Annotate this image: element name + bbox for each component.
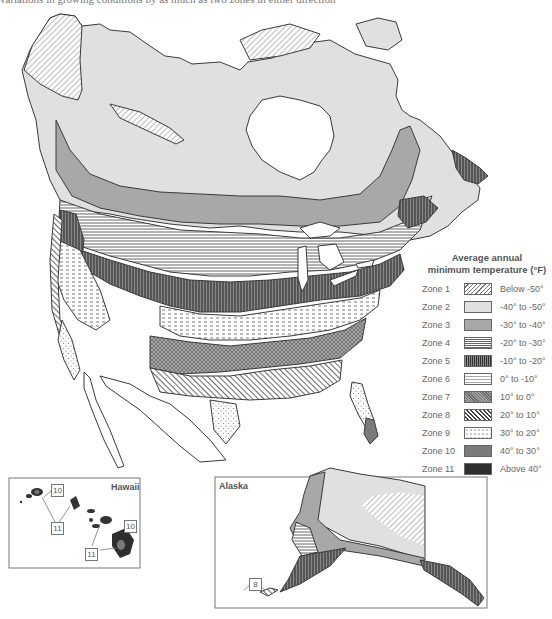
hawaii-callout-zone11-big-island: 11 (85, 548, 98, 561)
zone10-swatch (464, 445, 492, 457)
hawaii-label: Hawaii (111, 482, 140, 492)
zone8-swatch (464, 409, 492, 421)
legend-zone-label: Zone 7 (422, 391, 450, 404)
alaska-label: Alaska (219, 481, 248, 491)
legend-zone-label: Zone 2 (422, 301, 450, 314)
zone10-florida-tip (364, 418, 378, 444)
legend-row-zone5: Zone 5 -10° to -20° (418, 355, 552, 369)
legend-zone-label: Zone 3 (422, 319, 450, 332)
legend-zone-range: 10° to 0° (500, 391, 535, 404)
legend-row-zone4: Zone 4 -20° to -30° (418, 337, 552, 351)
zone5-swatch (464, 355, 492, 367)
legend-row-zone2: Zone 2 -40° to -50° (418, 301, 552, 315)
arctic-island-east (356, 18, 402, 50)
zone9-swatch (464, 427, 492, 439)
legend-zone-label: Zone 4 (422, 337, 450, 350)
legend-zone-range: 0° to -10° (500, 373, 538, 386)
zone9-california (58, 320, 80, 380)
legend-row-zone10: Zone 10 40° to 30° (418, 445, 552, 459)
zone9-texas (210, 400, 240, 444)
legend-zone-label: Zone 11 (422, 463, 454, 476)
hawaii-callout-zone11-oahu: 11 (51, 522, 64, 535)
zone11-swatch (464, 463, 492, 475)
legend-row-zone11: Zone 11 Above 40° (418, 463, 552, 477)
legend-zone-range: 30° to 20° (500, 427, 540, 440)
legend-row-zone6: Zone 6 0° to -10° (418, 373, 552, 387)
legend-zone-range: Above 40° (500, 463, 542, 476)
legend-title-line1: Average annual (422, 252, 552, 264)
alaska-callout-zone8: 8 (249, 578, 262, 591)
legend-zone-label: Zone 10 (422, 445, 455, 458)
zone7-swatch (464, 391, 492, 403)
legend-row-zone9: Zone 9 30° to 20° (418, 427, 552, 441)
hawaii-callout-zone10-big-island: 10 (124, 520, 137, 533)
zone1-swatch (464, 283, 492, 295)
legend-zone-range: 40° to 30° (500, 445, 540, 458)
zone4-swatch (464, 337, 492, 349)
legend-zone-label: Zone 8 (422, 409, 450, 422)
legend-row-zone8: Zone 8 20° to 10° (418, 409, 552, 423)
legend-zone-label: Zone 9 (422, 427, 450, 440)
zone3-swatch (464, 319, 492, 331)
legend-zone-range: -30° to -40° (500, 319, 546, 332)
legend-zone-range: Below -50° (500, 283, 544, 296)
legend-zone-label: Zone 1 (422, 283, 450, 296)
hawaii-callout-zone10-kauai: 10 (51, 484, 64, 497)
legend-zone-label: Zone 5 (422, 355, 450, 368)
legend-title-line2: minimum temperature (°F) (422, 264, 552, 276)
zone6-swatch (464, 373, 492, 385)
legend-zone-label: Zone 6 (422, 373, 450, 386)
legend-zone-range: -40° to -50° (500, 301, 546, 314)
legend-zone-range: -10° to -20° (500, 355, 546, 368)
legend-zone-range: -20° to -30° (500, 337, 546, 350)
zone2-swatch (464, 301, 492, 313)
legend-row-zone7: Zone 7 10° to 0° (418, 391, 552, 405)
legend-zone-range: 20° to 10° (500, 409, 540, 422)
legend-row-zone1: Zone 1 Below -50° (418, 283, 552, 297)
legend-row-zone3: Zone 3 -30° to -40° (418, 319, 552, 333)
zone-legend: Average annual minimum temperature (°F) … (418, 252, 552, 276)
